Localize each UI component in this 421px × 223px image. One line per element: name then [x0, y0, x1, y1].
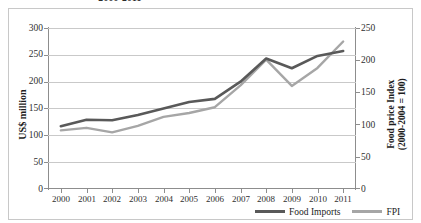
series-line-food-imports	[61, 51, 343, 126]
y-axis-left-title: US$ million	[15, 59, 29, 169]
tick-x-2006	[215, 189, 216, 193]
tick-right-150	[356, 92, 360, 93]
tick-x-2001	[87, 189, 88, 193]
y-axis-right-tick-150: 150	[361, 88, 387, 98]
tick-x-2005	[189, 189, 190, 193]
legend-entry-food-imports[interactable]: Food Imports	[255, 207, 340, 217]
legend-label-food-imports: Food Imports	[289, 207, 340, 217]
chart-title-clipped: 2000-2011	[0, 0, 421, 6]
tick-x-2010	[318, 189, 319, 193]
legend-entry-fpi[interactable]: FPI	[352, 207, 400, 217]
y-axis-right-tick-250: 250	[361, 24, 387, 34]
y-axis-left-tick-0: 0	[17, 185, 43, 195]
series-line-fpi	[61, 42, 343, 133]
tick-right-100	[356, 124, 360, 125]
y-axis-right-title-text: Food price Index(2000-2004 = 100)	[386, 78, 408, 150]
tick-x-2003	[138, 189, 139, 193]
legend-label-fpi: FPI	[386, 207, 400, 217]
y-axis-left-tick-300: 300	[17, 24, 43, 34]
plot-area: 2000 2001 2002 2003 2004 2005 2006 2007 …	[48, 28, 356, 189]
y-axis-left-tick-150: 150	[17, 104, 43, 114]
chart-figure: 2000-2011 US$ million Food price Index(2…	[0, 0, 421, 223]
y-axis-right-tick-200: 200	[361, 56, 387, 66]
y-axis-right-tick-50: 50	[361, 153, 387, 163]
y-axis-right-title-line1: Food price Index	[386, 79, 396, 148]
y-axis-left-tick-250: 250	[17, 50, 43, 60]
chart-plot-frame: US$ million Food price Index(2000-2004 =…	[8, 8, 413, 220]
y-axis-left-tick-100: 100	[17, 131, 43, 141]
tick-right-250	[356, 28, 360, 29]
y-axis-right-title-line2: (2000-2004 = 100)	[397, 78, 407, 150]
line-swatch-light-icon	[352, 210, 382, 213]
tick-x-2000	[61, 189, 62, 193]
y-axis-right-tick-100: 100	[361, 121, 387, 131]
tick-x-2009	[292, 189, 293, 193]
tick-right-200	[356, 60, 360, 61]
chart-legend: Food Imports FPI	[245, 203, 417, 220]
y-axis-left-tick-50: 50	[17, 158, 43, 168]
y-axis-right-tick-0: 0	[361, 185, 387, 195]
tick-x-2002	[112, 189, 113, 193]
chart-title: 2000-2011	[0, 0, 240, 3]
tick-right-0	[356, 188, 360, 189]
tick-x-2011	[343, 189, 344, 193]
line-swatch-dark-icon	[255, 210, 285, 213]
series-canvas	[48, 28, 356, 189]
tick-right-50	[356, 157, 360, 158]
tick-x-2004	[164, 189, 165, 193]
y-axis-left-tick-200: 200	[17, 77, 43, 87]
tick-x-2007	[241, 189, 242, 193]
tick-x-2008	[266, 189, 267, 193]
